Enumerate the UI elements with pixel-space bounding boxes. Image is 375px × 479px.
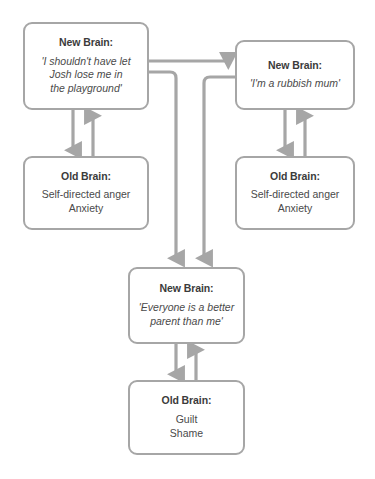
edge-newbrain1-to-newbrain3 <box>149 72 176 258</box>
node-body: 'I'm a rubbish mum' <box>244 77 346 91</box>
edge-newbrain2-to-newbrain3 <box>204 77 235 258</box>
node-title: New Brain: <box>160 282 214 295</box>
node-body: 'Everyone is a better parent than me' <box>133 301 240 329</box>
node-title: Old Brain: <box>162 394 212 407</box>
node-body: Guilt Shame <box>164 413 209 441</box>
node-new-brain-2[interactable]: New Brain: 'I'm a rubbish mum' <box>235 40 355 110</box>
node-title: New Brain: <box>59 36 113 49</box>
node-body: 'I shouldn't have let Josh lose me in th… <box>35 55 136 97</box>
node-body: Self-directed anger Anxiety <box>36 188 137 216</box>
node-new-brain-3[interactable]: New Brain: 'Everyone is a better parent … <box>128 267 245 344</box>
node-old-brain-2[interactable]: Old Brain: Self-directed anger Anxiety <box>235 156 355 230</box>
node-title: Old Brain: <box>270 170 320 183</box>
node-old-brain-1[interactable]: Old Brain: Self-directed anger Anxiety <box>23 156 149 230</box>
node-title: New Brain: <box>268 59 322 72</box>
node-body: Self-directed anger Anxiety <box>245 188 346 216</box>
diagram-canvas: New Brain: 'I shouldn't have let Josh lo… <box>0 0 375 479</box>
node-old-brain-3[interactable]: Old Brain: Guilt Shame <box>128 380 245 455</box>
node-title: Old Brain: <box>61 170 111 183</box>
node-new-brain-1[interactable]: New Brain: 'I shouldn't have let Josh lo… <box>23 22 149 110</box>
